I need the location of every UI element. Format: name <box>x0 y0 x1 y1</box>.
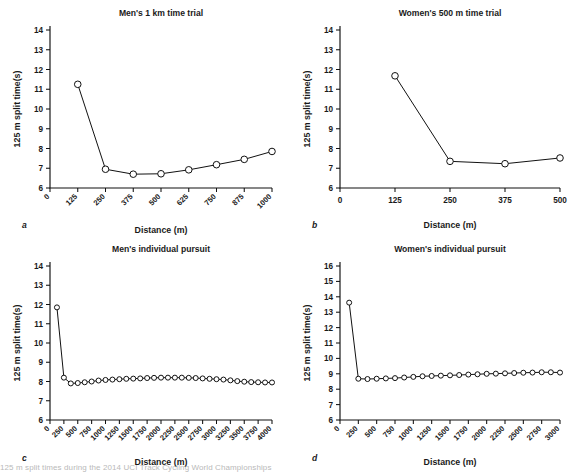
data-point-marker <box>130 171 137 178</box>
data-point-marker <box>75 381 80 386</box>
data-point-marker <box>103 377 108 382</box>
x-tick-label: 125 <box>64 192 80 208</box>
data-point-marker <box>200 376 205 381</box>
data-point-marker <box>214 377 219 382</box>
x-tick-label: 0 <box>332 424 341 433</box>
y-tick-label: 9 <box>328 370 333 379</box>
panel-title: Women's 500 m time trial <box>399 8 502 18</box>
data-point-marker <box>548 370 553 375</box>
y-tick-label: 14 <box>324 26 334 35</box>
panel-title: Men's individual pursuit <box>112 244 210 254</box>
data-point-marker <box>484 371 489 376</box>
x-tick-label: 375 <box>498 196 512 205</box>
x-tick-label: 1000 <box>396 424 414 442</box>
data-point-marker <box>193 376 198 381</box>
y-tick-label: 14 <box>34 262 44 271</box>
x-tick-label: 500 <box>147 192 162 207</box>
y-tick-label: 11 <box>324 339 333 348</box>
y-tick-label: 12 <box>324 324 334 333</box>
y-tick-label: 10 <box>34 105 44 114</box>
figure-svg: Men's 1 km time trial6789101112131401252… <box>0 0 573 474</box>
x-tick-label: 1000 <box>255 192 273 210</box>
data-point-marker <box>270 380 275 385</box>
data-point-marker <box>159 375 164 380</box>
y-tick-label: 6 <box>328 184 333 193</box>
data-point-marker <box>356 376 361 381</box>
y-axis-title: 125 m split time(s) <box>302 71 312 148</box>
data-point-marker <box>457 373 462 378</box>
y-tick-label: 9 <box>328 125 333 134</box>
x-tick-label: 500 <box>363 424 378 439</box>
y-tick-label: 10 <box>324 354 334 363</box>
x-tick-label: 3000 <box>543 424 561 442</box>
data-point-marker <box>179 375 184 380</box>
data-point-marker <box>263 380 268 385</box>
data-point-marker <box>438 373 443 378</box>
x-tick-label: 250 <box>50 424 65 439</box>
data-point-marker <box>502 160 509 167</box>
x-tick-label: 1750 <box>451 424 469 442</box>
data-point-marker <box>539 370 544 375</box>
data-point-marker <box>185 167 192 174</box>
axis-lines <box>50 26 272 188</box>
data-point-marker <box>365 377 370 382</box>
data-point-marker <box>448 373 453 378</box>
x-tick-label: 500 <box>64 424 79 439</box>
panel-title: Men's 1 km time trial <box>119 8 203 18</box>
y-tick-label: 13 <box>324 46 334 55</box>
y-tick-label: 6 <box>38 184 43 193</box>
y-tick-label: 9 <box>38 125 43 134</box>
data-point-marker <box>213 161 220 168</box>
y-tick-label: 12 <box>324 66 334 75</box>
data-point-marker <box>138 376 143 381</box>
chart-panel-c: Men's individual pursuit6789101112131402… <box>12 244 275 467</box>
chart-panel-a: Men's 1 km time trial6789101112131401252… <box>12 8 275 235</box>
y-tick-label: 11 <box>34 85 43 94</box>
data-point-marker <box>392 73 399 80</box>
x-tick-label: 500 <box>553 196 567 205</box>
y-tick-label: 8 <box>328 385 333 394</box>
data-point-marker <box>165 375 170 380</box>
data-point-marker <box>447 158 454 165</box>
data-point-marker <box>521 370 526 375</box>
data-point-marker <box>145 376 150 381</box>
figure-caption: 125 m split times during the 2014 UCI Tr… <box>0 463 573 474</box>
data-point-marker <box>493 371 498 376</box>
x-tick-label: 1500 <box>433 424 451 442</box>
y-tick-label: 7 <box>38 164 43 173</box>
y-tick-label: 13 <box>34 281 44 290</box>
x-tick-label: 250 <box>92 192 107 207</box>
panel-letter-a: a <box>22 220 27 230</box>
data-point-marker <box>466 372 471 377</box>
y-tick-label: 12 <box>34 66 44 75</box>
y-tick-label: 12 <box>34 301 44 310</box>
x-tick-label: 2500 <box>506 424 524 442</box>
axis-lines <box>50 262 272 420</box>
data-point-marker <box>110 377 115 382</box>
x-tick-label: 2000 <box>470 424 488 442</box>
y-tick-label: 6 <box>328 416 333 425</box>
data-point-marker <box>475 372 480 377</box>
x-tick-label: 2750 <box>525 424 543 442</box>
figure-panels: Men's 1 km time trial6789101112131401252… <box>0 0 573 474</box>
data-point-marker <box>96 378 101 383</box>
x-tick-label: 0 <box>338 196 343 205</box>
x-tick-label: 750 <box>203 192 218 207</box>
data-point-marker <box>402 375 407 380</box>
x-tick-label: 2250 <box>488 424 506 442</box>
panel-letter-c: c <box>22 453 27 463</box>
data-point-marker <box>235 379 240 384</box>
x-axis-title: Distance (m) <box>424 220 477 230</box>
data-point-marker <box>530 370 535 375</box>
y-tick-label: 15 <box>324 277 334 286</box>
data-point-marker <box>558 370 563 375</box>
chart-panel-b: Women's 500 m time trial6789101112131401… <box>302 8 567 230</box>
data-point-marker <box>347 300 352 305</box>
y-tick-label: 7 <box>328 401 333 410</box>
data-point-marker <box>74 81 81 88</box>
chart-panel-d: Women's individual pursuit67891011121314… <box>302 244 563 467</box>
x-tick-label: 750 <box>381 424 396 439</box>
y-axis-title: 125 m split time(s) <box>12 71 22 148</box>
y-tick-label: 7 <box>38 397 43 406</box>
x-tick-label: 4000 <box>255 424 273 442</box>
